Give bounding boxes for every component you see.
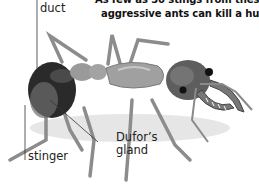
ant-anatomy-diagram: As few as 30 stings from these aggressiv…	[0, 0, 259, 188]
label-duct: duct	[40, 2, 65, 15]
eye	[205, 68, 213, 76]
label-dufors-gland-2: gland	[116, 144, 148, 157]
caption-line-2: aggressive ants can kill a human	[101, 6, 259, 21]
label-stinger: stinger	[28, 150, 68, 163]
